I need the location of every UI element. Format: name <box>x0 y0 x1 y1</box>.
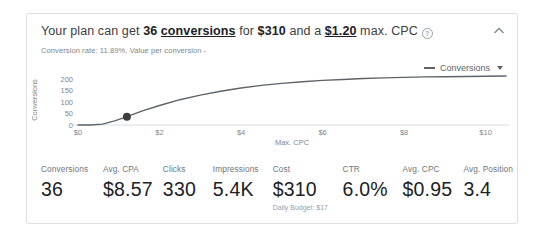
x-tick-label: $10 <box>479 128 492 137</box>
metric-label: Avg. CPA <box>103 164 163 174</box>
title-for: for <box>236 24 258 38</box>
conversions-count: 36 <box>143 24 161 38</box>
metric-label: Cost <box>273 164 343 174</box>
y-tick-label: 200 <box>60 75 73 84</box>
y-tick-label: 0 <box>69 121 73 130</box>
metric-ctr: CTR 6.0% <box>343 164 403 201</box>
cost-value: $310 <box>258 24 286 38</box>
help-icon[interactable]: ? <box>422 28 433 39</box>
conversions-link[interactable]: conversions <box>161 24 236 38</box>
forecast-title: Your plan can get 36 conversions for $31… <box>41 24 477 39</box>
y-tick-label: 100 <box>60 98 73 107</box>
conversions-curve <box>78 76 506 125</box>
metric-value: $310 <box>273 178 343 201</box>
metric-avg-cpc: Avg. CPC $0.95 <box>403 164 464 201</box>
metric-conversions: Conversions 36 <box>41 164 103 201</box>
x-tick-label: $4 <box>237 128 245 137</box>
daily-budget-note: Daily Budget: $17 <box>273 204 343 211</box>
max-cpc-link[interactable]: $1.20 <box>325 24 357 38</box>
chevron-up-icon <box>493 27 505 35</box>
title-suffix: max. CPC <box>357 24 418 38</box>
x-tick-label: $2 <box>155 128 163 137</box>
metric-impressions: Impressions 5.4K <box>213 164 273 201</box>
y-axis-title: Conversions <box>30 79 39 121</box>
metric-label: Avg. Position <box>463 164 513 174</box>
metrics-row: Conversions 36 Avg. CPA $8.57 Clicks 330… <box>41 164 513 211</box>
metric-value: $0.95 <box>403 178 464 201</box>
title-and: and a <box>286 24 325 38</box>
forecast-card: Your plan can get 36 conversions for $31… <box>26 13 518 224</box>
metric-avg-position: Avg. Position 3.4 <box>463 164 513 201</box>
y-tick-label: 150 <box>60 86 73 95</box>
metric-value: 330 <box>163 178 213 201</box>
metric-value: 3.4 <box>463 178 513 201</box>
metric-label: Impressions <box>213 164 273 174</box>
forecast-chart[interactable]: 050100150200$0$2$4$6$8$10ConversionsMax.… <box>27 54 519 156</box>
max-cpc-marker[interactable] <box>123 113 131 121</box>
metric-label: Conversions <box>41 164 103 174</box>
metric-label: CTR <box>343 164 403 174</box>
metric-clicks: Clicks 330 <box>163 164 213 201</box>
metric-value: 36 <box>41 178 103 201</box>
x-axis-title: Max. CPC <box>275 138 310 147</box>
title-prefix: Your plan can get <box>41 24 143 38</box>
metric-value: $8.57 <box>103 178 163 201</box>
metric-label: Avg. CPC <box>403 164 464 174</box>
metric-cost: Cost $310 Daily Budget: $17 <box>273 164 343 211</box>
metric-value: 6.0% <box>343 178 403 201</box>
x-tick-label: $6 <box>318 128 326 137</box>
metric-value: 5.4K <box>213 178 273 201</box>
collapse-panel-button[interactable] <box>493 27 505 35</box>
y-tick-label: 50 <box>65 109 73 118</box>
x-tick-label: $8 <box>400 128 408 137</box>
x-tick-label: $0 <box>74 128 82 137</box>
metric-avg-cpa: Avg. CPA $8.57 <box>103 164 163 201</box>
metric-label: Clicks <box>163 164 213 174</box>
